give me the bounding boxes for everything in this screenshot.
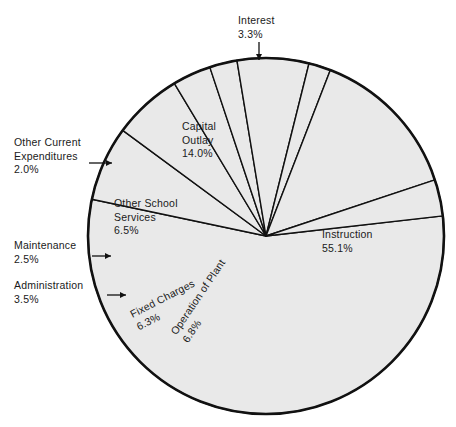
pie-slice-label: Capital Outlay 14.0% (182, 120, 216, 161)
pie-slice-label: Maintenance 2.5% (14, 239, 76, 266)
pie-slice-label: Other School Services 6.5% (114, 197, 178, 238)
pie-slice-label: Instruction 55.1% (322, 228, 373, 255)
pie-slice-label: Other Current Expenditures 2.0% (14, 136, 81, 177)
pie-chart: Instruction 55.1%Operation of Plant 6.8%… (0, 0, 456, 427)
pie-slice-label: Administration 3.5% (14, 279, 83, 306)
pie-slice-label: Interest 3.3% (238, 14, 275, 41)
pie-chart-canvas (0, 0, 456, 427)
